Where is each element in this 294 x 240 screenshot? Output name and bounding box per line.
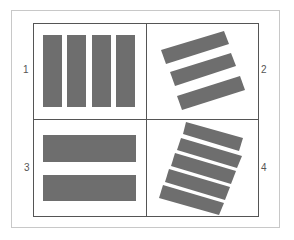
- quadrant-label-4: 4: [261, 162, 267, 173]
- quadrant-4-bars: [0, 0, 294, 240]
